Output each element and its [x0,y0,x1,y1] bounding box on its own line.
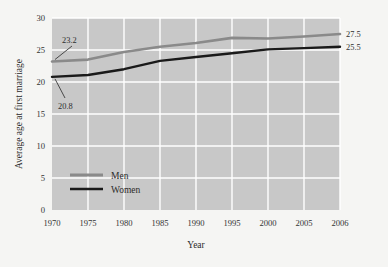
y-tick-label: 0 [41,205,45,215]
y-tick-label: 30 [36,13,45,23]
x-axis-title: Year [187,240,205,250]
x-tick-label: 1990 [187,218,204,228]
y-tick-label: 25 [36,45,45,55]
y-tick-label: 10 [36,141,45,151]
legend-label-women: Women [111,185,141,195]
x-tick-label: 1980 [115,218,132,228]
annotation-men-end: 27.5 [346,30,361,39]
x-tick-label: 1995 [223,218,240,228]
chart-figure: 051015202530 197019751980198519901995200… [0,0,388,267]
y-axis-title: Average age at first marriage [14,59,24,169]
x-tick-label: 2006 [331,218,349,228]
x-axis-ticks: 197019751980198519901995200020052006 [43,218,349,228]
legend-label-men: Men [111,171,129,181]
y-tick-label: 20 [36,77,45,87]
annotation-women-end: 25.5 [346,43,361,52]
x-tick-label: 1975 [79,218,96,228]
x-tick-label: 2005 [295,218,312,228]
y-tick-label: 15 [36,109,45,119]
x-tick-label: 1970 [43,218,60,228]
annotation-women-start: 20.8 [58,102,73,111]
x-tick-label: 2000 [259,218,276,228]
x-tick-label: 1985 [151,218,168,228]
line-chart-svg: 051015202530 197019751980198519901995200… [0,0,388,267]
y-tick-label: 5 [41,173,45,183]
annotation-men-start: 23.2 [62,36,77,45]
